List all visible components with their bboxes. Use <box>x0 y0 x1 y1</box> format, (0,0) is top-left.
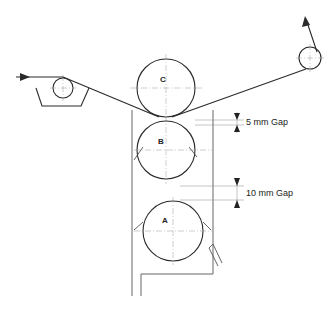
gap-dimension-5mm <box>195 112 244 133</box>
roll-c <box>130 54 202 122</box>
right-idler-roll <box>296 44 324 72</box>
roll-label-c: C <box>160 75 166 84</box>
gap-label-5mm: 5 mm Gap <box>246 117 288 127</box>
roll-a <box>134 197 212 265</box>
roll-b <box>134 116 212 184</box>
left-idler-roll <box>50 75 76 101</box>
roll-stand-frame <box>132 110 213 296</box>
roll-label-a: A <box>162 216 168 225</box>
gap-dimension-10mm <box>180 178 244 208</box>
gap-label-10mm: 10 mm Gap <box>246 188 293 198</box>
roll-label-b: B <box>158 137 164 146</box>
web-path <box>16 22 317 117</box>
input-arrow-icon <box>20 73 30 81</box>
left-trough <box>36 88 89 106</box>
doctor-blade <box>209 244 222 266</box>
three-roll-coater-diagram <box>0 0 332 312</box>
output-arrow-icon <box>302 16 310 27</box>
